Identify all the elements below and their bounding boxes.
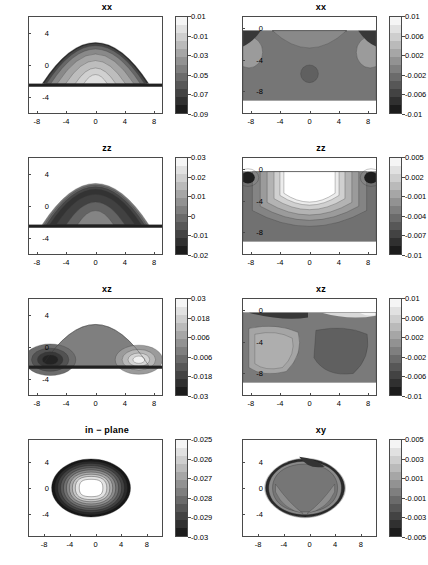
x-tick-label: -4 <box>277 399 284 408</box>
colorbar-tick-label: -0.025 <box>191 435 212 444</box>
x-tickmark <box>147 534 148 537</box>
x-tickmark <box>284 534 285 537</box>
x-tickmark <box>154 111 155 114</box>
y-tickmark <box>242 488 245 489</box>
x-tickmark <box>280 393 281 396</box>
y-tick-label: 4 <box>45 311 49 320</box>
colorbar-tick-label: -0.01 <box>405 251 422 260</box>
x-tick-label: 4 <box>119 540 123 549</box>
colorbar-tick-label: -0.028 <box>191 493 212 502</box>
colorbar <box>389 439 402 537</box>
x-tickmark <box>361 534 362 537</box>
colorbar-tick-label: -0.07 <box>191 90 208 99</box>
colorbar-tick-label: 0.01 <box>405 294 420 303</box>
y-tick-label: 0 <box>259 165 263 174</box>
x-tickmark <box>310 534 311 537</box>
x-tickmark <box>96 111 97 114</box>
plot-title: zz <box>214 143 428 153</box>
x-tick-label: 0 <box>307 117 311 126</box>
colorbar-tick-label: 0.018 <box>191 313 210 322</box>
x-tick-label: 8 <box>359 540 363 549</box>
x-tick-label: 8 <box>145 540 149 549</box>
colorbar-tick-label: 0.006 <box>405 313 424 322</box>
colorbar-tick-label: -0.003 <box>405 513 426 522</box>
x-tickmark <box>368 393 369 396</box>
x-tickmark <box>335 534 336 537</box>
plot-title: xz <box>0 284 214 294</box>
plot-title: zz <box>0 143 214 153</box>
x-tick-label: -4 <box>63 117 70 126</box>
x-tickmark <box>44 534 45 537</box>
x-tick-label: -4 <box>280 540 287 549</box>
x-tick-label: -8 <box>247 258 254 267</box>
colorbar-tick-label: -0.03 <box>191 392 208 401</box>
y-tickmark <box>28 97 31 98</box>
x-tickmark <box>121 534 122 537</box>
y-tick-label: -4 <box>42 509 49 518</box>
colorbar-tick-label: 0.006 <box>191 333 210 342</box>
colorbar-tick-label: -0.006 <box>405 372 426 381</box>
colorbar-tick-label: 0 <box>191 211 195 220</box>
y-tick-label: -8 <box>256 368 263 377</box>
colorbar-tick-label: -0.026 <box>191 454 212 463</box>
x-tickmark <box>37 393 38 396</box>
y-tickmark <box>242 201 245 202</box>
colorbar-tick-label: -0.018 <box>191 372 212 381</box>
plot-title: in − plane <box>0 425 214 435</box>
x-tickmark <box>96 534 97 537</box>
y-tickmark <box>28 238 31 239</box>
x-tick-label: -8 <box>41 540 48 549</box>
x-tick-label: -8 <box>33 258 40 267</box>
x-tick-label: -8 <box>247 117 254 126</box>
colorbar <box>175 439 188 537</box>
colorbar-tick-label: 0.005 <box>405 153 424 162</box>
x-tick-label: 4 <box>337 117 341 126</box>
x-tickmark <box>368 111 369 114</box>
plot-panel-row2-col2: zz-8-40480-4-80.0050.002-0.001-0.004-0.0… <box>214 141 428 282</box>
x-tick-label: 4 <box>123 258 127 267</box>
x-tick-label: 4 <box>123 399 127 408</box>
x-tickmark <box>37 111 38 114</box>
y-tickmark <box>242 232 245 233</box>
x-tick-label: 0 <box>307 258 311 267</box>
colorbar-tick-label: -0.03 <box>191 51 208 60</box>
x-tick-label: 0 <box>93 117 97 126</box>
x-tickmark <box>280 111 281 114</box>
y-tickmark <box>28 462 31 463</box>
x-tick-label: 8 <box>366 117 370 126</box>
colorbar-tick-label: -0.001 <box>405 192 426 201</box>
colorbar <box>175 157 188 255</box>
x-tickmark <box>125 393 126 396</box>
colorbar-tick-label: -0.001 <box>405 493 426 502</box>
plot-panel-row2-col1: zz-8-404840-40.030.020.010-0.01-0.02 <box>0 141 214 282</box>
x-tickmark <box>96 393 97 396</box>
colorbar-tick-label: 0.01 <box>191 192 206 201</box>
x-tick-label: 8 <box>152 258 156 267</box>
colorbar <box>175 298 188 396</box>
y-tickmark <box>242 169 245 170</box>
y-tickmark <box>28 347 31 348</box>
colorbar-tick-label: 0.006 <box>405 31 424 40</box>
x-tick-label: 0 <box>93 258 97 267</box>
colorbar-tick-label: -0.002 <box>405 70 426 79</box>
y-tickmark <box>242 514 245 515</box>
y-tickmark <box>28 33 31 34</box>
x-tick-label: -4 <box>66 540 73 549</box>
plot-panel-row4-col2: xy-8-404840-40.0050.0030.001-0.001-0.003… <box>214 423 428 564</box>
colorbar-tick-label: 0.01 <box>405 12 420 21</box>
y-tickmark <box>28 488 31 489</box>
x-tick-label: -4 <box>277 258 284 267</box>
x-tickmark <box>125 252 126 255</box>
x-tick-label: 8 <box>366 399 370 408</box>
y-tickmark <box>242 373 245 374</box>
colorbar-tick-label: -0.007 <box>405 231 426 240</box>
x-tick-label: 4 <box>333 540 337 549</box>
x-tickmark <box>310 111 311 114</box>
colorbar-tick-label: 0.01 <box>191 12 206 21</box>
x-tick-label: 4 <box>337 399 341 408</box>
colorbar-tick-label: -0.006 <box>191 352 212 361</box>
x-tickmark <box>70 534 71 537</box>
y-tickmark <box>28 315 31 316</box>
x-tick-label: 8 <box>152 117 156 126</box>
x-tickmark <box>154 393 155 396</box>
